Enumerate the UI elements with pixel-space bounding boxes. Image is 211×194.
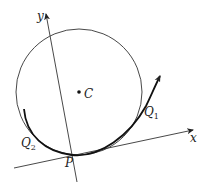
- point-q1-label: Q1: [144, 105, 159, 121]
- osculating-circle-diagram: y x C P Q1 Q2: [0, 0, 211, 194]
- center-label: C: [84, 87, 93, 101]
- x-axis-label: x: [190, 131, 197, 145]
- y-axis-label: y: [36, 9, 44, 23]
- center-point: [77, 90, 81, 94]
- point-p-label: P: [64, 156, 74, 170]
- point-q2-label: Q2: [21, 136, 36, 152]
